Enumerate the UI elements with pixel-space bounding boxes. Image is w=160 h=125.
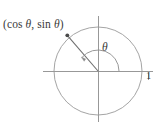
angle-arc (82, 50, 119, 71)
point-coordinates-label: (cos θ, sin θ) (3, 19, 64, 31)
angle-arc-arrowhead (81, 57, 85, 61)
point-on-circle (65, 33, 69, 37)
radius-line (67, 35, 98, 71)
x-axis-unit-label: 1 (146, 71, 151, 82)
unit-circle-figure: (cos θ, sin θ) θ 1 (0, 0, 160, 125)
point-label-open-paren: (cos (3, 18, 23, 30)
point-label-comma-sin: , sin (31, 18, 51, 30)
angle-theta-label: θ (102, 42, 108, 54)
point-label-close-paren: ) (60, 18, 64, 30)
